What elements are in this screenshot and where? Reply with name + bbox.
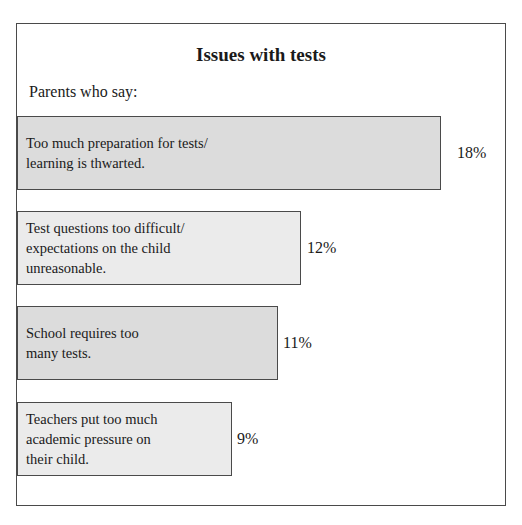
chart-subtitle: Parents who say: [29,82,137,102]
bar-preparation: Too much preparation for tests/ learning… [17,116,441,190]
chart-title: Issues with tests [17,44,505,66]
bar-value-label: 18% [457,143,486,163]
chart-frame: Issues with tests Parents who say: Too m… [16,23,506,506]
bar-label: School requires too many tests. [18,323,139,363]
bar-difficulty: Test questions too difficult/ expectatio… [17,211,301,285]
bar-value-label: 12% [307,238,336,258]
bar-label: Too much preparation for tests/ learning… [18,133,208,173]
bar-value-label: 11% [283,333,312,353]
bar-label: Teachers put too much academic pressure … [18,409,157,469]
bar-label: Test questions too difficult/ expectatio… [18,218,185,278]
bar-value-label: 9% [237,429,258,449]
bar-academic-pressure: Teachers put too much academic pressure … [17,402,232,476]
bar-too-many-tests: School requires too many tests. [17,306,278,380]
